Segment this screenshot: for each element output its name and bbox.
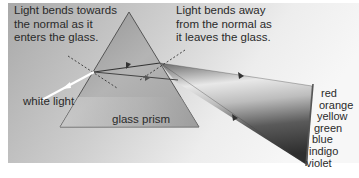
annotation-line: it leaves the glass. [176,31,272,45]
spectrum-label-violet: violet [306,158,353,170]
annotation-line: from the normal as [176,18,272,32]
exit-annotation: Light bends away from the normal as it l… [176,4,272,45]
annotation-line: the normal as it [14,18,117,32]
entry-annotation: Light bends towards the normal as it ent… [14,4,117,45]
annotation-line: Light bends towards [14,4,117,18]
spectrum-label-indigo: indigo [306,146,353,158]
spectrum-label-red: red [306,88,353,100]
glass-prism-label: glass prism [112,113,170,126]
annotation-line: Light bends away [176,4,272,18]
white-light-label: white light [23,95,74,108]
spectrum-color-list: red orange yellow green blue indigo viol… [306,88,353,169]
annotation-line: enters the glass. [14,31,117,45]
prism-dispersion-diagram: Light bends towards the normal as it ent… [0,0,359,178]
